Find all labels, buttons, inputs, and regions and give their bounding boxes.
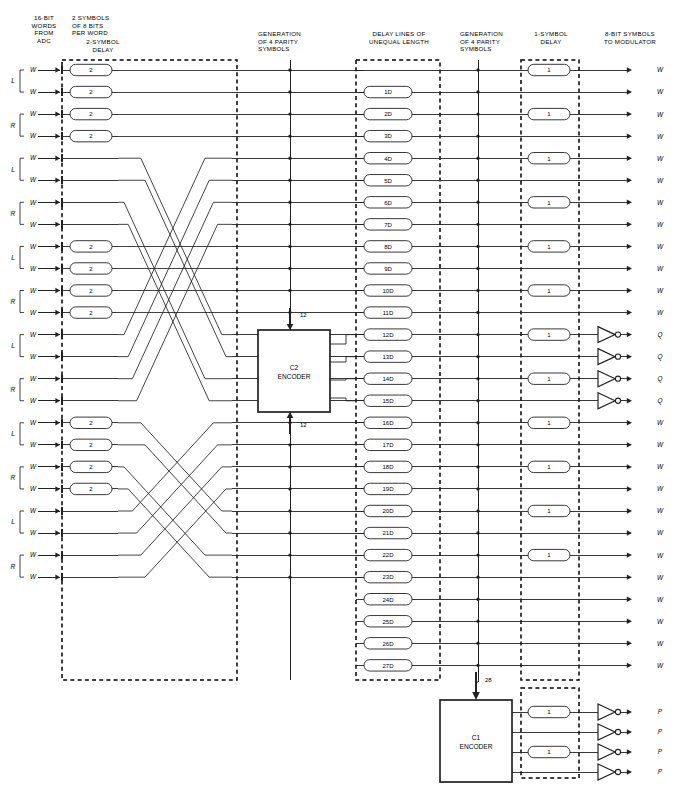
delay-line-21D[interactable]: 21D [364,527,412,538]
c2-tap [288,68,291,71]
one-symbol-delay-21[interactable]: 1 [528,505,570,516]
c2-encoder[interactable]: C2ENCODER1212 [258,308,356,434]
input-label-w: W [30,110,37,117]
one-symbol-delay-5[interactable]: 1 [528,153,570,164]
input-row-24: W [30,573,62,581]
output-label: W [657,529,664,536]
one-symbol-delay-11[interactable]: 1 [528,285,570,296]
two-symbol-delay-4[interactable]: 2 [70,130,112,141]
one-symbol-delay-p1[interactable]: 1 [528,706,570,717]
mid-row-9 [232,245,364,248]
one-symbol-delay-3[interactable]: 1 [528,108,570,119]
two-symbol-delay-1[interactable]: 2 [70,64,112,75]
input-label-w: W [30,309,37,316]
output-row-28: W [478,662,664,669]
two-symbol-delay-18[interactable]: 2 [70,439,112,450]
c1-encoder[interactable]: C1ENCODER281PP1PP [440,665,663,782]
two-symbol-delay-2[interactable]: 2 [70,86,112,97]
channel-brace-1: L [11,70,24,92]
delay-line-25D[interactable]: 25D [364,616,412,627]
channel-brace-7: L [11,335,24,357]
delay-line-19D[interactable]: 19D [364,483,412,494]
two-symbol-delay-9[interactable]: 2 [70,241,112,252]
channel-label: R [11,122,16,129]
svg-text:7D: 7D [384,222,392,228]
c2-tap [288,157,291,160]
two-symbol-delay-19[interactable]: 2 [70,461,112,472]
mid-row-22 [232,531,364,534]
one-symbol-delay-23[interactable]: 1 [528,549,570,560]
delay-line-17D[interactable]: 17D [364,439,412,450]
delay-line-1D[interactable]: 1D [364,86,412,97]
delay-line-15D[interactable]: 15D [364,395,412,406]
input-row-2: W [30,88,62,96]
two-symbol-delay-11[interactable]: 2 [70,285,112,296]
delay-line-24D[interactable]: 24D [364,594,412,605]
delayline-row-3: 2D [356,108,480,119]
one-symbol-delay-9[interactable]: 1 [528,241,570,252]
delayline-row-25: 24D [356,594,480,605]
bus-width-bottom: 12 [300,422,307,428]
channel-label: L [11,254,15,261]
input-label-w: W [30,397,37,404]
c2-tap [288,443,291,446]
one-symbol-delay-1[interactable]: 1 [528,64,570,75]
output-row-9: 1W [478,241,664,252]
delay-line-8D[interactable]: 8D [364,241,412,252]
delay-line-10D[interactable]: 10D [364,285,412,296]
delayline-row-22: 21D [356,527,480,538]
c2-tap [288,289,291,292]
output-label: W [657,243,664,250]
delay-line-26D[interactable]: 26D [364,638,412,649]
delay-line-22D[interactable]: 22D [364,549,412,560]
delayline-row-27: 26D [356,638,480,649]
two-symbol-delay-10[interactable]: 2 [70,263,112,274]
two-symbol-delay-12[interactable]: 2 [70,307,112,318]
delayline-row-6: 5D [356,175,480,186]
one-symbol-delay-15[interactable]: 1 [528,373,570,384]
delay-line-5D[interactable]: 5D [364,175,412,186]
input-row-7: W [30,198,62,206]
delay-line-12D[interactable]: 12D [364,329,412,340]
mid-row-19 [232,465,364,468]
delay-line-27D[interactable]: 27D [364,660,412,671]
one-symbol-delay-19[interactable]: 1 [528,461,570,472]
svg-text:14D: 14D [382,376,394,382]
delay-line-18D[interactable]: 18D [364,461,412,472]
delay-line-3D[interactable]: 3D [364,130,412,141]
output-row-16: Q [478,393,663,409]
two-symbol-delay-20[interactable]: 2 [70,483,112,494]
delay-line-11D[interactable]: 11D [364,307,412,318]
delay-line-23D[interactable]: 23D [364,571,412,582]
delay-line-14D[interactable]: 14D [364,373,412,384]
delay-line-20D[interactable]: 20D [364,505,412,516]
signal-rows: WWWWWWWWWWWWWWWWWWWWWWWWLRLRLRLRLRLR2222… [11,64,664,671]
two-symbol-delay-17[interactable]: 2 [70,417,112,428]
input-row-23: W [30,551,62,559]
two-symbol-delay-3[interactable]: 2 [70,108,112,119]
delay-line-2D[interactable]: 2D [364,108,412,119]
output-label: W [657,88,664,95]
delay-line-9D[interactable]: 9D [364,263,412,274]
one-symbol-delay-17[interactable]: 1 [528,417,570,428]
output-row-12: W [478,309,664,316]
output-row-8: W [478,221,664,228]
delay-line-4D[interactable]: 4D [364,153,412,164]
interleave-wire-17 [118,423,232,511]
svg-text:17D: 17D [382,442,394,448]
output-label: W [657,177,664,184]
svg-text:13D: 13D [382,354,394,360]
delayline-row-9: 8D [356,241,480,252]
input-row-13: W [30,330,62,338]
delay-line-16D[interactable]: 16D [364,417,412,428]
delay-line-7D[interactable]: 7D [364,219,412,230]
svg-text:11D: 11D [383,310,394,316]
one-symbol-delay-13[interactable]: 1 [528,329,570,340]
one-symbol-delay-p3[interactable]: 1 [528,746,570,757]
input-label-w: W [30,507,37,514]
delay-line-13D[interactable]: 13D [364,351,412,362]
one-symbol-delay-7[interactable]: 1 [528,197,570,208]
delay-line-6D[interactable]: 6D [364,197,412,208]
svg-text:1D: 1D [384,89,392,95]
output-label: W [657,507,664,514]
